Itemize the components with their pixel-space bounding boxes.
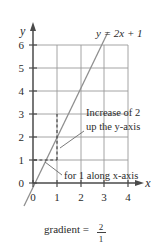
x-label-1: 1 — [54, 191, 60, 203]
leader-line-run — [45, 162, 62, 175]
figure-container: 6 5 4 3 2 1 0 0 1 2 3 4 y x y = 2x + 1 I… — [0, 0, 160, 251]
y-label-5: 5 — [19, 62, 25, 74]
equation-label: y = 2x + 1 — [95, 27, 143, 39]
y-label-3: 3 — [19, 108, 25, 120]
x-axis-tick-labels: 0 1 2 3 4 — [30, 191, 131, 203]
y-label-1: 1 — [19, 154, 25, 166]
annotation-rise-line-2: up the y-axis — [86, 121, 140, 132]
y-label-0: 0 — [19, 177, 25, 189]
y-label-4: 4 — [19, 85, 25, 97]
leader-line-rise — [60, 131, 84, 148]
caption-gradient-text: gradient = — [44, 223, 89, 235]
y-axis-arrowhead — [30, 22, 36, 31]
x-label-2: 2 — [78, 191, 84, 203]
annotation-run: for 1 along x-axis — [64, 170, 138, 181]
x-axis-name: x — [144, 176, 151, 190]
y-axis-tick-labels: 6 5 4 3 2 1 0 — [19, 39, 25, 189]
y-label-2: 2 — [19, 131, 25, 143]
annotation-rise-line-1: Increase of 2 — [86, 107, 140, 118]
x-label-0: 0 — [30, 191, 36, 203]
caption-fraction-numerator: 2 — [99, 222, 104, 232]
graph-svg: 6 5 4 3 2 1 0 0 1 2 3 4 y x y = 2x + 1 I… — [0, 0, 160, 251]
caption-fraction-denominator: 1 — [99, 234, 104, 244]
y-axis-name: y — [19, 24, 26, 38]
y-label-6: 6 — [19, 39, 25, 51]
x-label-4: 4 — [125, 191, 131, 203]
x-label-3: 3 — [101, 191, 107, 203]
